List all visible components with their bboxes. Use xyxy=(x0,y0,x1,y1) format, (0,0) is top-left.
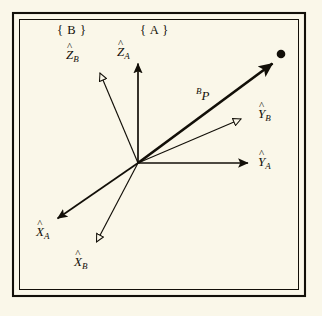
y-a-hat: ^ xyxy=(259,148,264,159)
y-b-hat: ^ xyxy=(259,100,264,111)
y-a-hatstack: ^Y xyxy=(258,155,265,168)
axis-label-x-a: ^XA xyxy=(36,225,49,241)
z-a-subscript: A xyxy=(124,51,130,61)
diagram-svg xyxy=(0,0,322,316)
x-a-hatstack: ^X xyxy=(36,225,44,238)
x-b-hat: ^ xyxy=(75,248,80,259)
axis-arrow-z-b xyxy=(100,73,138,163)
axis-arrow-x-b xyxy=(97,163,139,242)
vector-label-bp-base: P xyxy=(202,88,210,103)
z-a-hatstack: ^Z xyxy=(117,45,124,58)
x-a-subscript: A xyxy=(44,231,50,241)
axis-label-y-a: ^YA xyxy=(258,155,271,171)
y-b-hatstack: ^Y xyxy=(258,107,265,120)
axis-label-y-b: ^YB xyxy=(258,107,271,123)
y-a-subscript: A xyxy=(265,161,271,171)
x-b-hatstack: ^X xyxy=(74,255,82,268)
axis-label-z-a: ^ZA xyxy=(117,45,130,61)
frame-tag-b: { B } xyxy=(57,24,87,37)
z-b-hat: ^ xyxy=(67,41,72,52)
z-a-hat: ^ xyxy=(118,38,123,49)
frame-tag-b-text: { B } xyxy=(57,23,87,37)
figure-canvas: { B } { A } ^ZB ^ZA ^YB ^YA ^XA ^XB BP xyxy=(0,0,322,316)
frame-tag-a-text: { A } xyxy=(140,23,169,37)
vector-label-bp: BP xyxy=(196,87,209,102)
x-b-subscript: B xyxy=(82,261,88,271)
axis-label-z-b: ^ZB xyxy=(66,48,79,64)
point-p-dot xyxy=(277,50,286,59)
vector-arrow-bp xyxy=(138,64,273,164)
z-b-hatstack: ^Z xyxy=(66,48,73,61)
y-b-subscript: B xyxy=(265,113,271,123)
frame-tag-a: { A } xyxy=(140,24,169,37)
axis-label-x-b: ^XB xyxy=(74,255,87,271)
x-a-hat: ^ xyxy=(37,218,42,229)
z-b-subscript: B xyxy=(73,54,79,64)
axis-arrow-x-a xyxy=(58,163,139,219)
